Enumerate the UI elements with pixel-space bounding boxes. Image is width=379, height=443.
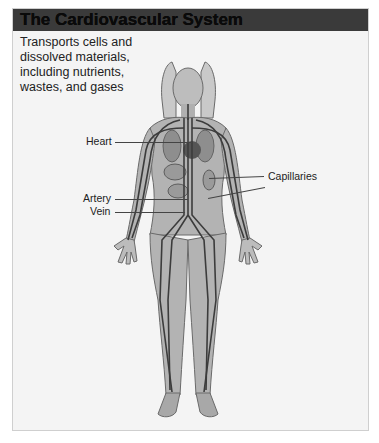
artery-label: Artery: [83, 192, 111, 204]
heart-label: Heart: [86, 135, 112, 147]
capillaries-label: Capillaries: [268, 170, 317, 182]
vein-leader-line: [115, 212, 185, 213]
human-body-figure: [0, 0, 379, 443]
heart-leader-line: [115, 142, 192, 143]
artery-leader-line: [115, 199, 188, 200]
vein-label: Vein: [90, 205, 110, 217]
